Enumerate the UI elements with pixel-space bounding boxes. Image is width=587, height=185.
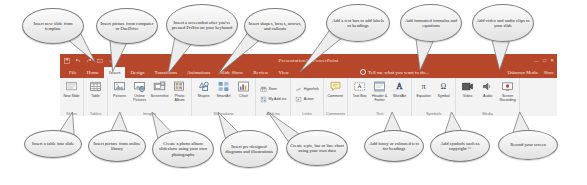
callout-bubble-shapes: Insert shapes, boxes, arrows, and callou… (244, 8, 306, 44)
callout-bubble-chart: Create a pie, bar or line chart using yo… (286, 130, 348, 166)
equation-icon: π (417, 80, 430, 93)
ribbon-button-label: Screen Recording (498, 94, 517, 102)
callout-text: Add formatted formulas and equations (404, 18, 458, 29)
callout-bubble-new-slide: Insert new slide from template (22, 8, 84, 44)
tab-file[interactable]: File (64, 67, 82, 78)
callout-text: Record your screen (510, 142, 546, 147)
callout-text: Insert a screenshot after you've pressed… (170, 20, 234, 31)
callout-text: Add a text box to add labels or headings (330, 18, 386, 29)
ribbon-button-label: Chart (239, 94, 248, 98)
action-icon (295, 96, 302, 103)
ribbon-button-photo-album[interactable]: Photo Album (170, 79, 189, 102)
window-controls[interactable]: — □ ✕ (534, 54, 554, 67)
ribbon-button-label: Hyperlink (304, 87, 319, 91)
svg-text:A: A (357, 83, 362, 89)
callout-text: Insert picture from computer or OneDrive (100, 21, 154, 32)
wordart-icon: A (393, 80, 406, 93)
ribbon-button-video[interactable]: Video (458, 79, 477, 98)
ribbon-button-new-slide[interactable]: New Slide (62, 79, 81, 98)
ribbon-button-header-and-footer[interactable]: Header & Footer (370, 79, 389, 102)
callout-text: Add video and audio clips to your slide (476, 18, 530, 29)
tab-view[interactable]: View (273, 67, 294, 78)
ribbon-button-label: Text Box (353, 94, 367, 98)
table-icon (89, 80, 102, 93)
ribbon-button-label: Shapes (197, 94, 209, 98)
callout-bubble-text-box: Add a text box to add labels or headings (326, 4, 390, 42)
callout-bubble-photo-album: Create a photo album slideshow using you… (152, 130, 214, 168)
close-icon[interactable]: ✕ (550, 54, 554, 67)
callout-text: Insert pre-designed diagrams and illustr… (224, 144, 274, 155)
my-addins-icon (260, 96, 267, 103)
callout-text: Insert shapes, boxes, arrows, and callou… (248, 21, 302, 32)
ribbon-button-action[interactable]: Action (293, 95, 316, 104)
ribbon-button-label: Equation (417, 94, 431, 98)
smartart-icon (217, 80, 230, 93)
callout-bubble-screen-recording: Record your screen (498, 130, 558, 160)
ribbon-button-label: WordArt (393, 94, 406, 98)
callout-bubble-wordart: Add fancy or coloured text for headings (364, 130, 424, 162)
ribbon-group-comments: CommentComments (324, 78, 348, 116)
ribbon-button-smartart[interactable]: SmartArt (214, 79, 233, 98)
ribbon-group-label: Media (458, 111, 517, 116)
new-slide-icon (65, 80, 78, 93)
pictures-icon (113, 80, 126, 93)
ribbon-button-table[interactable]: Table (86, 79, 105, 98)
store-icon (260, 86, 267, 93)
ribbon-button-text-box[interactable]: AText Box (350, 79, 369, 98)
ribbon-group-label: Comments (326, 111, 345, 116)
ribbon-button-online-pictures[interactable]: Online Pictures (130, 79, 149, 102)
ribbon-button-screen-recording[interactable]: Screen Recording (498, 79, 517, 102)
ribbon-button-label: New Slide (63, 94, 79, 98)
callout-text: Add fancy or coloured text for headings (368, 141, 420, 152)
callout-bubble-online-pictures: Insert picture from online library (88, 130, 146, 162)
ribbon-group-tables: TableTables (84, 78, 108, 116)
callout-text: Create a photo album slideshow using you… (156, 141, 210, 157)
ribbon-button-audio[interactable]: Audio (478, 79, 497, 98)
ribbon[interactable]: New SlideSlidesTableTablesPicturesOnline… (60, 78, 557, 116)
ribbon-button-label: Screenshot (150, 94, 168, 98)
ribbon-button-hyperlink[interactable]: Hyperlink (293, 85, 320, 94)
callout-bubble-symbol: Add symbols such as copyright © (430, 130, 490, 162)
ribbon-button-pictures[interactable]: Pictures (110, 79, 129, 98)
minimize-icon[interactable]: — (534, 54, 539, 67)
screenshot-icon (153, 80, 166, 93)
ribbon-button-chart[interactable]: Chart (234, 79, 253, 98)
chart-icon (237, 80, 250, 93)
ribbon-button-label: Comment (327, 94, 343, 98)
hyperlink-icon (295, 86, 302, 93)
ribbon-button-label: SmartArt (216, 94, 230, 98)
svg-text:π: π (422, 82, 426, 91)
ribbon-button-equation[interactable]: πEquation (414, 79, 433, 98)
lightbulb-icon (360, 69, 366, 75)
ribbon-button-label: Photo Album (170, 94, 189, 102)
svg-text:Ω: Ω (441, 82, 447, 91)
svg-text:A: A (397, 82, 403, 91)
text-box-icon: A (353, 80, 366, 93)
comment-icon (329, 80, 342, 93)
callout-text: Insert new slide from template (26, 21, 80, 32)
account-area[interactable]: Unknown MediaShare (507, 67, 554, 78)
share-button[interactable]: Share (544, 67, 554, 78)
callout-tail (414, 37, 435, 72)
ribbon-button-comment[interactable]: Comment (326, 79, 345, 98)
ribbon-button-shapes[interactable]: Shapes (194, 79, 213, 98)
audio-icon (481, 80, 494, 93)
ribbon-button-symbol[interactable]: ΩSymbol (434, 79, 453, 98)
ribbon-button-label: Header & Footer (370, 94, 389, 102)
ribbon-button-label: Audio (483, 94, 492, 98)
tab-home[interactable]: Home (82, 67, 104, 78)
callout-text: Add symbols such as copyright © (434, 141, 486, 152)
maximize-icon[interactable]: □ (543, 54, 546, 67)
callout-text: Insert picture from online library (92, 141, 142, 152)
callout-text: Create a pie, bar or line chart using yo… (290, 143, 344, 154)
ribbon-button-store[interactable]: Store (258, 85, 279, 94)
ribbon-button-wordart[interactable]: AWordArt (390, 79, 409, 98)
ribbon-button-label: Video (463, 94, 472, 98)
ribbon-button-label: My Add-ins (269, 97, 287, 101)
callout-text: Insert a table into slide (32, 141, 74, 146)
ribbon-button-my-add-ins[interactable]: My Add-ins (258, 95, 288, 104)
callout-bubble-table: Insert a table into slide (24, 130, 82, 158)
callout-bubble-equation: Add formatted formulas and equations (400, 4, 462, 42)
ribbon-button-label: Pictures (113, 94, 126, 98)
ribbon-button-screenshot[interactable]: Screenshot (150, 79, 169, 98)
